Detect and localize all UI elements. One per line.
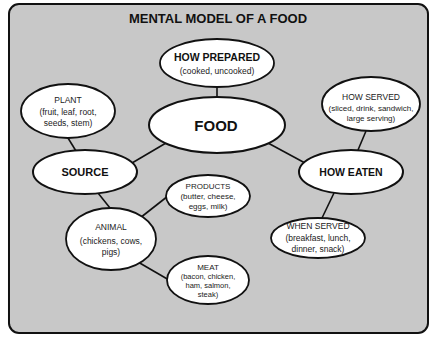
node-how-served: HOW SERVED (sliced, drink, sandwich, lar… <box>322 77 420 131</box>
animal-label: ANIMAL <box>95 222 127 232</box>
how-served-detail-1: (sliced, drink, sandwich, <box>329 104 414 113</box>
node-how-eaten: HOW EATEN <box>299 150 403 194</box>
node-source: SOURCE <box>33 150 137 194</box>
how-served-detail-2: large serving) <box>347 114 396 123</box>
products-detail-1: (butter, cheese, <box>180 192 235 201</box>
meat-detail-3: steak) <box>198 290 219 299</box>
node-meat: MEAT (bacon, chicken, ham, salmon, steak… <box>167 256 249 304</box>
meat-label: MEAT <box>197 263 219 272</box>
node-how-prepared: HOW PREPARED (cooked, uncooked) <box>160 39 274 87</box>
when-served-label: WHEN SERVED <box>286 221 349 231</box>
how-prepared-detail: (cooked, uncooked) <box>180 66 255 76</box>
node-plant: PLANT (fruit, leaf, root, seeds, stem) <box>21 84 115 138</box>
how-eaten-label: HOW EATEN <box>319 166 382 178</box>
how-served-label: HOW SERVED <box>342 92 400 102</box>
diagram-title: MENTAL MODEL OF A FOOD <box>129 11 307 26</box>
products-label: PRODUCTS <box>186 182 231 191</box>
when-served-detail-1: (breakfast, lunch, <box>285 233 350 243</box>
meat-detail-2: ham, salmon, <box>185 281 230 290</box>
plant-detail-2: seeds, stem) <box>44 118 93 128</box>
meat-detail-1: (bacon, chicken, <box>181 272 236 281</box>
food-mental-model-diagram: MENTAL MODEL OF A FOOD HOW PREPARED (coo… <box>0 0 432 341</box>
animal-detail-1: (chickens, cows, <box>80 236 142 246</box>
food-label: FOOD <box>194 117 237 134</box>
node-animal: ANIMAL (chickens, cows, pigs) <box>66 208 156 270</box>
plant-label: PLANT <box>54 95 81 105</box>
plant-detail-1: (fruit, leaf, root, <box>39 107 96 117</box>
how-prepared-label: HOW PREPARED <box>174 51 261 63</box>
animal-detail-2: pigs) <box>102 247 121 257</box>
node-products: PRODUCTS (butter, cheese, eggs, milk) <box>166 175 250 217</box>
source-label: SOURCE <box>61 166 108 178</box>
node-food: FOOD <box>149 97 285 153</box>
node-when-served: WHEN SERVED (breakfast, lunch, dinner, s… <box>271 218 365 258</box>
when-served-detail-2: dinner, snack) <box>292 244 345 254</box>
products-detail-2: eggs, milk) <box>189 202 228 211</box>
